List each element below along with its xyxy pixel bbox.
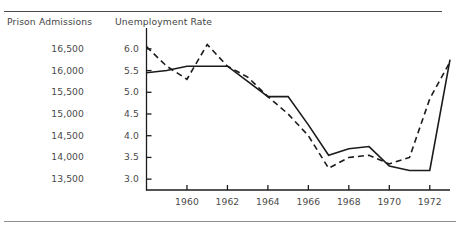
series-line-unemployment-rate bbox=[147, 45, 451, 169]
plot-area bbox=[0, 0, 458, 228]
chart-figure: Prison Admissions Unemployment Rate 13,5… bbox=[0, 0, 458, 228]
y-axis-tick-marks bbox=[147, 49, 152, 179]
x-axis-tick-marks bbox=[187, 185, 430, 190]
series-line-prison-admissions bbox=[147, 60, 451, 171]
